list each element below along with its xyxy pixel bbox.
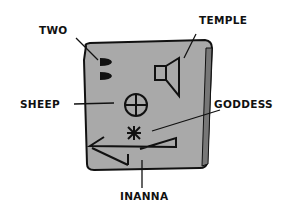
label-two: TWO	[39, 24, 68, 36]
label-goddess: GODDESS	[214, 98, 273, 110]
label-temple: TEMPLE	[199, 14, 247, 26]
label-sheep: SHEEP	[20, 98, 60, 110]
sheep-glyph	[125, 94, 147, 116]
goddess-glyph	[127, 126, 141, 140]
label-inanna: INANNA	[120, 190, 168, 202]
